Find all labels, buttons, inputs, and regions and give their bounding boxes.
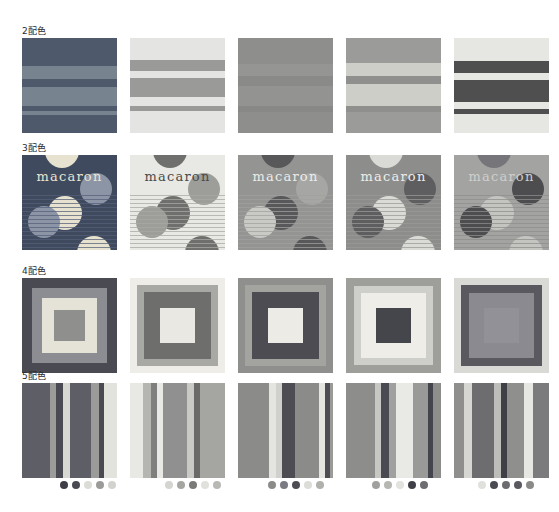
swatch-4color-5[interactable]	[454, 278, 549, 373]
palette-dot	[372, 481, 380, 489]
swatch-5color-2[interactable]	[130, 383, 225, 478]
swatch-5color-3[interactable]	[238, 383, 333, 478]
color-band	[22, 87, 117, 106]
palette-dot	[304, 481, 312, 489]
hairline	[454, 243, 549, 244]
color-band	[238, 38, 333, 64]
swatch-5color-5[interactable]	[454, 383, 549, 478]
vertical-stripe	[238, 383, 269, 478]
color-band	[454, 38, 549, 61]
palette-row-1	[0, 38, 559, 133]
hairline	[346, 203, 441, 204]
palette-dots-1	[60, 480, 116, 490]
hairline	[22, 199, 117, 200]
palette-dot	[268, 481, 276, 489]
stripe-stack	[22, 383, 117, 478]
color-band	[238, 112, 333, 133]
vertical-stripe	[269, 383, 276, 478]
vertical-stripe	[282, 383, 295, 478]
swatch-3color-2[interactable]: macaron	[130, 155, 225, 250]
palette-dot	[60, 481, 68, 489]
hairline	[346, 239, 441, 240]
color-band	[346, 63, 441, 76]
swatch-3color-4[interactable]: macaron	[346, 155, 441, 250]
swatch-4color-4[interactable]	[346, 278, 441, 373]
hairline	[346, 223, 441, 224]
swatch-3color-5[interactable]: macaron	[454, 155, 549, 250]
hairline	[130, 199, 225, 200]
swatch-4color-3[interactable]	[238, 278, 333, 373]
color-band	[346, 76, 441, 84]
vertical-stripe	[130, 383, 143, 478]
color-band	[22, 79, 117, 87]
vertical-stripe	[507, 383, 524, 478]
palette-dot	[177, 481, 185, 489]
hairlines	[346, 195, 441, 250]
swatch-5color-4[interactable]	[346, 383, 441, 478]
color-band	[454, 102, 549, 109]
swatch-4color-1[interactable]	[22, 278, 117, 373]
palette-dot	[502, 481, 510, 489]
macaron-art: macaron	[346, 155, 441, 250]
vertical-stripe	[533, 383, 549, 478]
hairline	[22, 195, 117, 196]
hairline	[22, 235, 117, 236]
square-layer	[268, 308, 303, 343]
palette-dots-2	[165, 480, 221, 490]
palette-dot	[420, 481, 428, 489]
color-band	[238, 86, 333, 106]
palette-sheet: 2配色3配色macaronmacaronmacaronmacaronmacaro…	[0, 0, 559, 512]
macaron-circle	[153, 155, 187, 168]
hairline	[130, 203, 225, 204]
hairline	[22, 223, 117, 224]
band-stack	[454, 38, 549, 133]
square-layer	[484, 308, 519, 343]
palette-row-3	[0, 278, 559, 373]
hairline	[130, 211, 225, 212]
swatch-5color-1[interactable]	[22, 383, 117, 478]
swatch-2color-4[interactable]	[346, 38, 441, 133]
macaron-label: macaron	[346, 169, 441, 184]
macaron-label: macaron	[238, 169, 333, 184]
hairline	[130, 243, 225, 244]
vertical-stripe	[295, 383, 319, 478]
band-stack	[238, 38, 333, 133]
color-band	[454, 80, 549, 102]
macaron-art: macaron	[238, 155, 333, 250]
vertical-stripe	[163, 383, 187, 478]
stripe-stack	[130, 383, 225, 478]
macaron-label: macaron	[454, 169, 549, 184]
hairline	[130, 215, 225, 216]
palette-dot	[280, 481, 288, 489]
hairline	[346, 243, 441, 244]
hairline	[454, 219, 549, 220]
vertical-stripe	[63, 383, 70, 478]
hairline	[130, 235, 225, 236]
swatch-2color-1[interactable]	[22, 38, 117, 133]
palette-dots-3	[268, 480, 324, 490]
vertical-stripe	[454, 383, 464, 478]
swatch-2color-3[interactable]	[238, 38, 333, 133]
nested-square-art	[22, 278, 117, 373]
nested-square-art	[130, 278, 225, 373]
color-band	[130, 78, 225, 97]
swatch-3color-1[interactable]: macaron	[22, 155, 117, 250]
hairline	[346, 247, 441, 248]
swatch-2color-5[interactable]	[454, 38, 549, 133]
color-band	[238, 64, 333, 76]
palette-dot	[514, 481, 522, 489]
vertical-stripe	[433, 383, 441, 478]
color-band	[22, 115, 117, 133]
hairline	[238, 223, 333, 224]
vertical-stripe	[472, 383, 494, 478]
swatch-4color-2[interactable]	[130, 278, 225, 373]
color-band	[238, 76, 333, 86]
macaron-circle	[261, 155, 295, 168]
palette-dot	[384, 481, 392, 489]
swatch-3color-3[interactable]: macaron	[238, 155, 333, 250]
palette-dot	[478, 481, 486, 489]
color-band	[346, 84, 441, 106]
palette-dot	[526, 481, 534, 489]
swatch-2color-2[interactable]	[130, 38, 225, 133]
hairline	[130, 207, 225, 208]
